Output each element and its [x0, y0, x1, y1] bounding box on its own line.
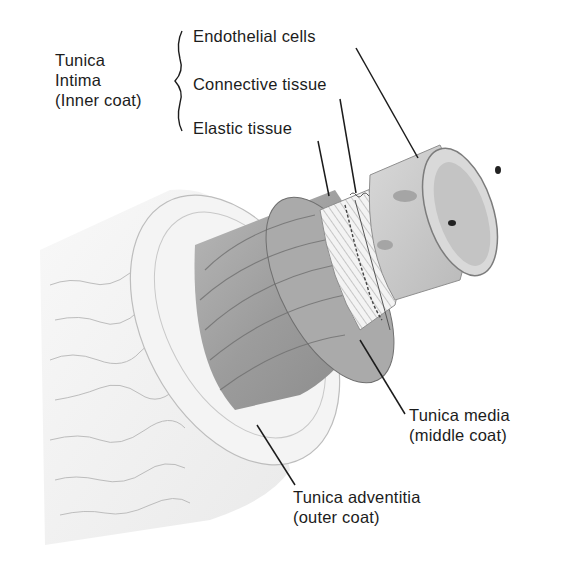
endothelium-layer — [369, 139, 511, 300]
tunica-media-line-1: Tunica media — [409, 405, 510, 425]
elastic-tissue-label: Elastic tissue — [193, 118, 292, 138]
tunica-intima-line-2: Intima — [55, 70, 142, 90]
connective-tissue-label: Connective tissue — [193, 74, 327, 94]
endothelial-cells-label: Endothelial cells — [193, 26, 316, 46]
tunica-intima-line-1: Tunica — [55, 50, 142, 70]
tunica-media-line-2: (middle coat) — [409, 425, 510, 445]
tunica-adventitia-line-1: Tunica adventitia — [293, 487, 421, 507]
tunica-adventitia-label: Tunica adventitia (outer coat) — [293, 487, 421, 527]
tunica-intima-label: Tunica Intima (Inner coat) — [55, 50, 142, 110]
intima-bracket — [175, 31, 182, 131]
tunica-intima-line-3: (Inner coat) — [55, 90, 142, 110]
tunica-media-label: Tunica media (middle coat) — [409, 405, 510, 445]
tunica-adventitia-line-2: (outer coat) — [293, 507, 421, 527]
